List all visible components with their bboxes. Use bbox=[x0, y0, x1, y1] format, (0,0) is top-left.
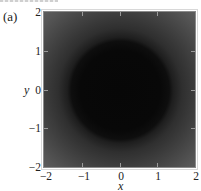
y-axis-label: y bbox=[24, 83, 29, 98]
top-tick bbox=[120, 12, 121, 16]
top-tick bbox=[82, 12, 83, 16]
right-tick bbox=[191, 51, 195, 52]
left-tick bbox=[44, 128, 48, 129]
bottom-tick bbox=[82, 163, 83, 167]
x-tick-label: −2 bbox=[36, 170, 56, 182]
y-tick-label: 1 bbox=[25, 45, 41, 57]
x-tick-label: 1 bbox=[148, 170, 168, 182]
x-tick-label: −1 bbox=[74, 170, 94, 182]
right-tick bbox=[191, 128, 195, 129]
cropped-caption-fragment bbox=[0, 0, 58, 2]
left-tick bbox=[44, 51, 48, 52]
bottom-tick bbox=[120, 163, 121, 167]
panel-label: (a) bbox=[3, 9, 17, 25]
top-tick bbox=[157, 12, 158, 16]
heatmap-plot-area bbox=[43, 11, 196, 168]
right-tick bbox=[191, 90, 195, 91]
x-axis-label: x bbox=[118, 179, 123, 191]
y-tick-label: −1 bbox=[25, 122, 41, 134]
left-tick bbox=[44, 90, 48, 91]
x-tick-label: 2 bbox=[186, 170, 201, 182]
bottom-tick bbox=[157, 163, 158, 167]
y-tick-label: 2 bbox=[25, 6, 41, 18]
